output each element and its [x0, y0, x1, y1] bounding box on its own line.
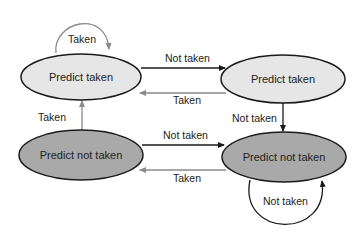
state-bottom-right-predict-not-taken: Predict not taken [222, 132, 346, 182]
transition-label: Not taken [232, 112, 277, 124]
transition-br-to-bl-taken: Taken [140, 170, 226, 184]
transition-bl-to-tl-taken: Taken [38, 101, 82, 130]
transition-tr-to-br-not-taken: Not taken [232, 103, 283, 131]
transition-label: Taken [173, 94, 201, 106]
transition-label: Not taken [263, 195, 308, 207]
transition-label: Not taken [163, 129, 208, 141]
state-diagram: Taken Not taken Taken Not taken Taken No… [0, 0, 364, 238]
state-top-left-predict-taken: Predict taken [21, 54, 141, 100]
transition-label: Taken [173, 172, 201, 184]
transition-self-not-taken-bottom-right: Not taken [249, 180, 323, 224]
state-label: Predict taken [251, 73, 315, 85]
state-bottom-left-predict-not-taken: Predict not taken [19, 130, 143, 180]
transition-tl-to-tr-not-taken: Not taken [141, 52, 225, 68]
transition-label: Taken [68, 33, 96, 45]
state-label: Predict not taken [243, 151, 326, 163]
state-label: Predict not taken [40, 149, 123, 161]
transition-label: Not taken [165, 52, 210, 64]
transition-tr-to-tl-taken: Taken [140, 93, 226, 106]
transition-self-taken-top-left: Taken [56, 24, 109, 53]
transition-label: Taken [38, 111, 66, 123]
transition-bl-to-br-not-taken: Not taken [142, 129, 224, 145]
state-label: Predict taken [49, 71, 113, 83]
state-top-right-predict-taken: Predict taken [221, 55, 345, 103]
